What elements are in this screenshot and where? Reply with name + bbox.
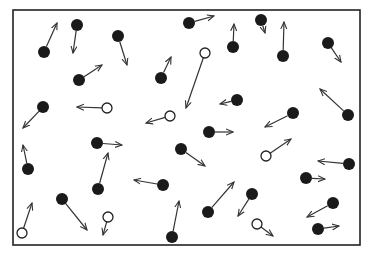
velocity-arrow-icon — [307, 206, 328, 217]
filled-molecule — [175, 143, 205, 166]
velocity-arrow-icon — [66, 204, 87, 230]
filled-circle-icon — [183, 17, 195, 29]
filled-molecule — [277, 22, 289, 62]
filled-molecule — [220, 94, 243, 106]
velocity-arrow-icon — [320, 89, 344, 111]
open-molecule — [252, 219, 273, 236]
filled-circle-icon — [37, 101, 49, 113]
velocity-arrow-icon — [331, 48, 341, 62]
filled-molecule — [307, 197, 339, 217]
velocity-arrow-icon — [233, 24, 234, 41]
filled-molecule — [166, 201, 179, 243]
velocity-arrow-icon — [324, 226, 339, 228]
open-circle-icon — [261, 151, 271, 161]
open-molecule — [186, 48, 210, 108]
filled-molecule — [56, 193, 87, 230]
open-molecule — [261, 139, 291, 161]
open-molecule — [77, 103, 112, 113]
velocity-arrow-icon — [318, 161, 343, 163]
filled-circle-icon — [71, 19, 83, 31]
velocity-arrow-icon — [23, 145, 27, 163]
filled-molecule — [318, 158, 355, 170]
velocity-arrow-icon — [103, 222, 107, 235]
open-circle-icon — [17, 228, 27, 238]
open-circle-icon — [102, 103, 112, 113]
filled-molecule — [227, 24, 239, 53]
velocity-arrow-icon — [283, 22, 284, 50]
velocity-arrow-icon — [84, 65, 102, 77]
filled-circle-icon — [166, 231, 178, 243]
filled-circle-icon — [157, 179, 169, 191]
filled-molecule — [23, 101, 49, 128]
velocity-arrow-icon — [100, 153, 108, 183]
filled-molecule — [312, 223, 339, 235]
filled-circle-icon — [175, 143, 187, 155]
velocity-arrow-icon — [120, 42, 127, 65]
filled-circle-icon — [246, 188, 258, 200]
velocity-arrow-icon — [164, 57, 171, 73]
velocity-arrow-icon — [186, 58, 203, 108]
velocity-arrow-icon — [263, 26, 265, 33]
filled-circle-icon — [231, 94, 243, 106]
open-molecule — [103, 212, 113, 235]
open-circle-icon — [165, 111, 175, 121]
filled-circle-icon — [38, 46, 50, 58]
filled-molecule — [38, 23, 57, 58]
velocity-arrow-icon — [77, 107, 102, 108]
filled-circle-icon — [287, 107, 299, 119]
velocity-arrow-icon — [73, 31, 76, 53]
filled-molecule — [265, 107, 299, 127]
filled-circle-icon — [300, 172, 312, 184]
filled-molecule — [238, 188, 258, 216]
velocity-arrow-icon — [220, 101, 231, 104]
open-circle-icon — [200, 48, 210, 58]
filled-circle-icon — [327, 197, 339, 209]
velocity-arrow-icon — [261, 227, 273, 236]
open-circle-icon — [252, 219, 262, 229]
filled-circle-icon — [312, 223, 324, 235]
open-circle-icon — [103, 212, 113, 222]
filled-circle-icon — [112, 30, 124, 42]
filled-molecule — [134, 179, 169, 191]
filled-molecule — [92, 153, 108, 195]
filled-molecule — [202, 182, 234, 218]
filled-circle-icon — [277, 50, 289, 62]
velocity-arrow-icon — [103, 143, 122, 145]
velocity-arrow-icon — [186, 152, 205, 166]
filled-molecule — [71, 19, 83, 53]
filled-circle-icon — [91, 137, 103, 149]
filled-circle-icon — [155, 72, 167, 84]
velocity-arrow-icon — [146, 117, 165, 123]
filled-molecule — [91, 137, 122, 149]
filled-circle-icon — [202, 206, 214, 218]
open-molecule — [17, 203, 32, 238]
filled-molecule — [322, 37, 341, 62]
filled-circle-icon — [203, 126, 215, 138]
filled-molecule — [112, 30, 127, 65]
filled-molecule — [155, 57, 171, 84]
open-molecule — [146, 111, 175, 123]
filled-circle-icon — [92, 183, 104, 195]
velocity-arrow-icon — [23, 111, 39, 128]
filled-circle-icon — [73, 74, 85, 86]
filled-circle-icon — [343, 158, 355, 170]
velocity-arrow-icon — [195, 16, 214, 21]
filled-molecule — [300, 172, 325, 184]
filled-molecule — [22, 145, 34, 175]
velocity-arrow-icon — [24, 203, 32, 228]
velocity-arrow-icon — [46, 23, 57, 47]
filled-molecule — [183, 16, 214, 29]
velocity-arrow-icon — [134, 180, 157, 184]
container-box — [13, 10, 360, 245]
filled-circle-icon — [22, 163, 34, 175]
filled-molecule — [203, 126, 233, 138]
filled-circle-icon — [255, 14, 267, 26]
velocity-arrow-icon — [312, 178, 325, 179]
filled-molecule — [73, 65, 102, 86]
velocity-arrow-icon — [238, 199, 249, 216]
filled-molecule — [320, 89, 354, 121]
filled-circle-icon — [227, 41, 239, 53]
filled-circle-icon — [322, 37, 334, 49]
velocity-arrow-icon — [265, 116, 288, 127]
filled-circle-icon — [56, 193, 68, 205]
